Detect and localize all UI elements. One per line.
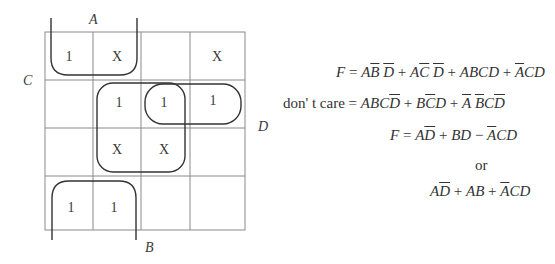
eq3-equals: =	[403, 127, 411, 143]
cell-r1c1: 1	[116, 95, 123, 110]
eq1-equals: =	[349, 64, 357, 80]
equation-F-simplified: F = AD + BD − ACD	[390, 127, 517, 144]
eq2-equals: =	[349, 95, 357, 111]
cell-r3c0: 1	[68, 200, 75, 215]
label-D: D	[257, 119, 268, 134]
cell-r2c1: X	[112, 142, 122, 157]
eq3-lhs: F	[390, 127, 399, 143]
cell-r1c2: 1	[161, 95, 168, 110]
cell-r2c2: X	[159, 142, 169, 157]
eq1-lhs: F	[336, 64, 345, 80]
group-row2-right	[145, 84, 241, 124]
cell-r3c1: 1	[111, 200, 118, 215]
cell-r0c1: X	[112, 49, 122, 64]
kmap-cells: 1 X X 1 1 1 X X 1 1	[66, 49, 223, 215]
cell-r0c0: 1	[66, 49, 73, 64]
equation-F-canonical: F = AB D + AC D + ABCD + ACD	[336, 64, 545, 81]
eq2-lhs: don' t care	[283, 95, 345, 111]
cell-r1c3: 1	[210, 93, 217, 108]
label-C: C	[23, 73, 33, 88]
karnaugh-map: A B C D 1 X X 1 1 1 X X 1 1	[0, 0, 280, 264]
equation-dont-care: don' t care = ABCD + BCD + A BCD	[283, 95, 505, 112]
label-B: B	[145, 240, 154, 255]
label-A: A	[88, 12, 98, 27]
group-bottom-left	[52, 181, 136, 240]
cell-r0c3: X	[212, 49, 222, 64]
equation-F-alternative: AD + AB + ACD	[430, 183, 530, 200]
equation-or: or	[475, 157, 488, 174]
